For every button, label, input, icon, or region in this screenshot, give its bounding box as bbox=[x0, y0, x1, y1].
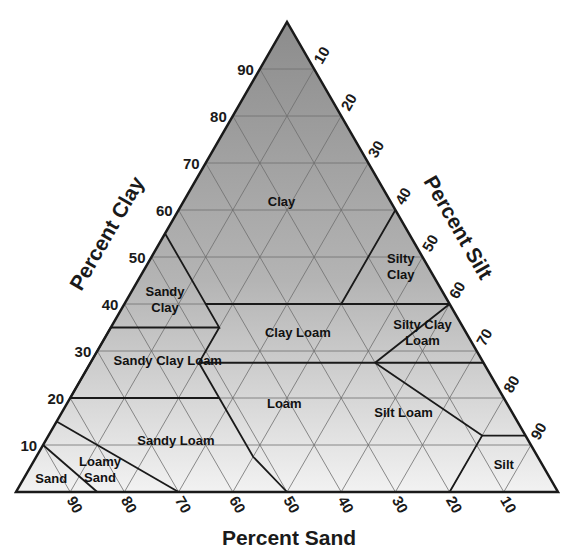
clay-tick-label: 30 bbox=[75, 343, 92, 360]
sand-tick-label: 30 bbox=[389, 493, 412, 516]
region-label-silt-loam: Silt Loam bbox=[374, 405, 433, 420]
clay-tick-label: 10 bbox=[20, 437, 37, 454]
region-label-loam: Loam bbox=[267, 396, 302, 411]
soil-texture-triangle: 1020304050607080901020304050607080909080… bbox=[0, 0, 579, 560]
silt-tick-label: 10 bbox=[310, 44, 333, 67]
silt-tick-label: 40 bbox=[391, 185, 414, 208]
sand-tick-label: 20 bbox=[443, 493, 466, 516]
region-label-clay-loam: Clay Loam bbox=[265, 325, 331, 340]
silt-tick-label: 50 bbox=[418, 232, 441, 255]
clay-tick-label: 80 bbox=[210, 108, 227, 125]
clay-tick-label: 90 bbox=[237, 61, 254, 78]
sand-tick-label: 50 bbox=[280, 493, 303, 516]
clay-tick-label: 20 bbox=[48, 390, 65, 407]
sand-axis-title: Percent Sand bbox=[222, 526, 356, 549]
region-label-sandy-loam: Sandy Loam bbox=[137, 433, 214, 448]
silt-tick-label: 20 bbox=[337, 91, 360, 114]
sand-tick-label: 80 bbox=[118, 493, 141, 516]
region-label-sand: Sand bbox=[35, 471, 67, 486]
sand-tick-label: 70 bbox=[172, 493, 195, 516]
triangle-svg: 1020304050607080901020304050607080909080… bbox=[0, 0, 579, 560]
clay-tick-label: 60 bbox=[156, 202, 173, 219]
region-label-loamy-sand: LoamySand bbox=[79, 454, 122, 485]
clay-tick-label: 40 bbox=[102, 296, 119, 313]
clay-tick-label: 50 bbox=[129, 249, 146, 266]
region-label-sandy-clay-loam: Sandy Clay Loam bbox=[114, 353, 222, 368]
region-label-silty-clay: SiltyClay bbox=[387, 251, 415, 282]
sand-tick-label: 40 bbox=[335, 493, 358, 516]
clay-tick-label: 70 bbox=[183, 155, 200, 172]
sand-tick-label: 90 bbox=[64, 493, 87, 516]
clay-axis-title: Percent Clay bbox=[65, 172, 149, 294]
silt-tick-label: 80 bbox=[500, 373, 523, 396]
region-label-clay: Clay bbox=[268, 194, 296, 209]
region-label-silt: Silt bbox=[494, 457, 515, 472]
silt-axis-title: Percent Silt bbox=[420, 171, 498, 283]
silt-tick-label: 60 bbox=[445, 279, 468, 302]
sand-tick-label: 60 bbox=[226, 493, 249, 516]
silt-tick-label: 70 bbox=[473, 326, 496, 349]
sand-tick-label: 10 bbox=[497, 493, 520, 516]
silt-tick-label: 30 bbox=[364, 138, 387, 161]
silt-tick-label: 90 bbox=[527, 420, 550, 443]
